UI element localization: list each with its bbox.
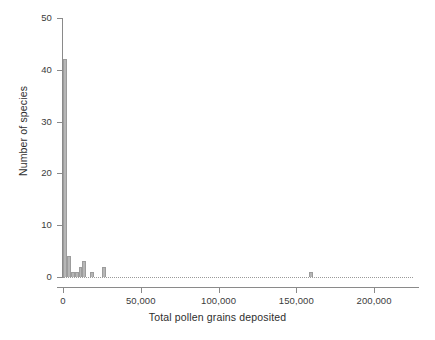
histogram-bar: [63, 59, 67, 277]
x-tick-mark: [219, 288, 220, 293]
y-tick-label: 50: [5, 12, 52, 23]
histogram-bar: [309, 272, 313, 277]
x-axis-line: [57, 287, 419, 288]
zero-baseline-gridline: [63, 277, 413, 278]
y-tick-mark: [57, 122, 62, 123]
x-tick-mark: [296, 288, 297, 293]
y-tick-mark: [57, 277, 62, 278]
y-tick-mark: [57, 225, 62, 226]
bars-layer: [63, 18, 413, 277]
y-tick-label: 0: [5, 271, 52, 282]
x-tick-label: 200,000: [339, 295, 409, 306]
x-tick-label: 0: [28, 295, 98, 306]
x-axis-title: Total pollen grains deposited: [0, 311, 435, 323]
x-tick-mark: [141, 288, 142, 293]
histogram-bar: [82, 261, 86, 277]
y-axis-title: Number of species: [17, 51, 29, 211]
histogram-bar: [102, 267, 106, 277]
histogram-bar: [90, 272, 94, 277]
x-tick-mark: [63, 288, 64, 293]
y-tick-label: 10: [5, 219, 52, 230]
x-tick-mark: [374, 288, 375, 293]
y-tick-mark: [57, 18, 62, 19]
y-tick-mark: [57, 70, 62, 71]
x-tick-label: 50,000: [106, 295, 176, 306]
histogram-figure: 01020304050 050,000100,000150,000200,000…: [0, 0, 435, 340]
x-tick-label: 150,000: [261, 295, 331, 306]
x-tick-label: 100,000: [184, 295, 254, 306]
y-tick-mark: [57, 173, 62, 174]
